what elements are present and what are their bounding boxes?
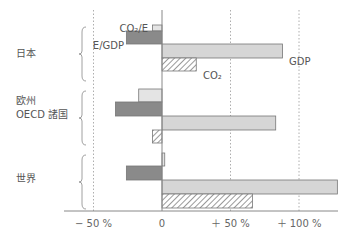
annotation-co2-e: CO₂/E <box>119 23 148 34</box>
annotation-gdp: GDP <box>289 56 310 67</box>
annotation-co2: CO₂ <box>203 70 222 81</box>
bar-gdp <box>162 180 337 194</box>
bar-co2 <box>162 194 252 208</box>
x-tick-label: ＋ 100 % <box>277 218 322 229</box>
bar-co2-e <box>152 25 162 31</box>
group-braces <box>79 27 86 209</box>
bar-co2 <box>162 58 196 71</box>
category-label: OECD 諸国 <box>16 108 68 120</box>
x-tick-label: ＋ 50 % <box>211 218 250 229</box>
bar-co2 <box>152 130 162 143</box>
chart: − 50 %0＋ 50 %＋ 100 % 日本欧州OECD 諸国世界CO₂/EE… <box>0 0 353 238</box>
bar-co2-e <box>139 89 162 102</box>
brace <box>79 155 86 209</box>
category-label: 欧州 <box>16 95 36 106</box>
x-tick-label: 0 <box>159 218 165 229</box>
brace <box>79 91 86 145</box>
bar-e-gdp <box>115 102 162 116</box>
brace <box>79 27 86 81</box>
annotation-e-gdp: E/GDP <box>93 40 124 51</box>
x-tick-label: − 50 % <box>75 218 112 229</box>
bars <box>115 25 337 208</box>
bar-gdp <box>162 44 283 58</box>
category-label: 世界 <box>16 173 36 184</box>
bar-gdp <box>162 116 276 130</box>
bar-e-gdp <box>126 166 162 180</box>
category-label: 日本 <box>16 47 36 59</box>
